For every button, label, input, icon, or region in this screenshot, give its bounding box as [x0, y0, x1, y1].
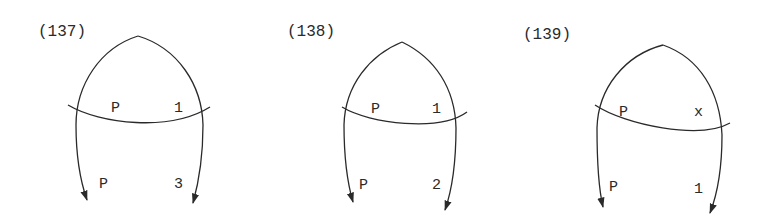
diagram-label: (138)	[287, 23, 335, 41]
crossing-arc	[342, 107, 467, 124]
label-top-left: P	[619, 104, 628, 121]
label-top-right: 1	[432, 101, 441, 118]
label-bottom-right: 2	[432, 177, 441, 194]
label-top-left: P	[371, 101, 380, 118]
label-top-right: 1	[174, 100, 183, 117]
label-bottom-left: P	[359, 177, 368, 194]
crossing-arc	[68, 105, 210, 123]
label-bottom-right: 1	[694, 181, 703, 198]
diagram-label: (139)	[523, 26, 571, 44]
diagram-label: (137)	[38, 23, 86, 41]
diagram-canvas: (137) P 1 P 3 (138) P 1 P 2 (139) P x P …	[0, 0, 767, 223]
diagram-139: (139) P x P 1	[523, 26, 730, 213]
diagram-138: (138) P 1 P 2	[287, 23, 467, 210]
label-bottom-right: 3	[174, 176, 183, 193]
label-top-left: P	[111, 100, 120, 117]
diagram-137: (137) P 1 P 3	[38, 23, 210, 203]
label-bottom-left: P	[99, 176, 108, 193]
label-top-right: x	[694, 104, 703, 121]
label-bottom-left: P	[609, 179, 618, 196]
right-arc-arrow	[402, 42, 456, 210]
right-arc-arrow	[138, 36, 203, 203]
crossing-arc	[595, 105, 730, 130]
